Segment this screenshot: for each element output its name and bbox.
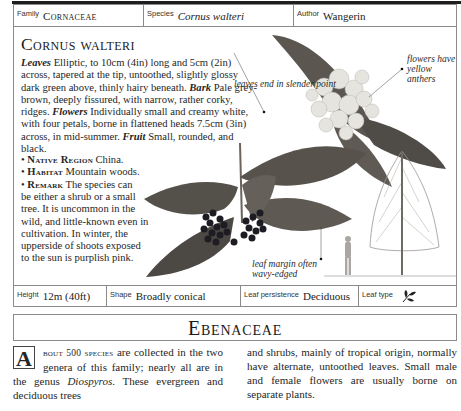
family-value: Cornaceae bbox=[43, 10, 97, 22]
simple-leaf-icon bbox=[401, 289, 417, 303]
bullet-label: Remark bbox=[27, 179, 63, 190]
shape-label: Shape bbox=[110, 290, 132, 299]
annotation-flowers: flowers have yellow anthers bbox=[407, 54, 457, 84]
bullet-text: Mountain woods. bbox=[63, 166, 140, 177]
species-value: Cornus walteri bbox=[178, 10, 244, 22]
species-panel: Cornus walteri Leaves Elliptic, to 10cm … bbox=[13, 27, 457, 285]
bullet-habitat: • Habitat Mountain woods. bbox=[21, 166, 151, 178]
persistence-cell: Leaf persistence Deciduous bbox=[241, 286, 359, 306]
family-cell: Family Cornaceae bbox=[14, 5, 144, 26]
family-heading-box: Ebenaceae bbox=[13, 314, 457, 341]
leaf-type-cell: Leaf type bbox=[359, 286, 456, 306]
species-cell: Species Cornus walteri bbox=[144, 5, 294, 26]
lead-text: bout 500 species bbox=[43, 348, 113, 358]
bullet-native-region: • Native Region China. bbox=[21, 154, 151, 166]
bullet-text: China. bbox=[93, 154, 124, 165]
species-title: Cornus walteri bbox=[21, 34, 135, 55]
bullet-label: Native Region bbox=[27, 154, 93, 165]
shape-cell: Shape Broadly conical bbox=[107, 286, 241, 306]
dropcap: A bbox=[13, 346, 35, 369]
bullet-label: Habitat bbox=[27, 166, 62, 177]
height-label: Height bbox=[17, 290, 39, 299]
author-value: Wangerin bbox=[323, 10, 366, 22]
annotation-leaf-margin: leaf margin often wavy-edged bbox=[252, 259, 324, 279]
family-intro-col1: About 500 species are collected in the t… bbox=[13, 345, 223, 402]
annotation-leaf-point: leaves end in slender point bbox=[234, 79, 336, 89]
bullet-text: The species can bbox=[63, 179, 133, 190]
author-label: Author bbox=[297, 9, 319, 18]
genus-name: Diospyros bbox=[67, 375, 112, 387]
bullet-list: • Native Region China. • Habitat Mountai… bbox=[21, 154, 151, 191]
persistence-label: Leaf persistence bbox=[244, 290, 299, 299]
family-label: Family bbox=[17, 9, 39, 18]
term-flowers: Flowers bbox=[52, 106, 87, 117]
height-value: 12m (40ft) bbox=[43, 290, 90, 302]
persistence-value: Deciduous bbox=[303, 290, 350, 302]
shape-value: Broadly conical bbox=[136, 290, 206, 302]
species-label: Species bbox=[147, 9, 174, 18]
family-intro-col2: and shrubs, mainly of tropical origin, n… bbox=[247, 345, 457, 401]
term-leaves: Leaves bbox=[21, 57, 51, 68]
author-cell: Author Wangerin bbox=[294, 5, 456, 26]
height-cell: Height 12m (40ft) bbox=[14, 286, 107, 306]
leaf-type-label: Leaf type bbox=[362, 290, 393, 299]
family-heading: Ebenaceae bbox=[14, 315, 456, 341]
remark-text: be either a shrub or a small tree. It is… bbox=[21, 191, 151, 265]
bullet-remark: • Remark The species can bbox=[21, 179, 151, 191]
footer-row: Height 12m (40ft) Shape Broadly conical … bbox=[13, 285, 457, 307]
header-row: Family Cornaceae Species Cornus walteri … bbox=[13, 4, 457, 27]
